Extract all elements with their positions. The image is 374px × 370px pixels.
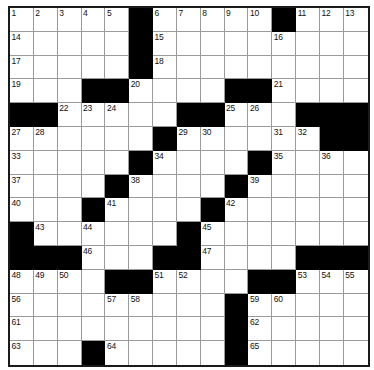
grid-cell[interactable]: [153, 294, 177, 318]
grid-cell[interactable]: 61: [10, 317, 34, 341]
grid-cell[interactable]: 7: [177, 8, 201, 32]
grid-cell[interactable]: 44: [82, 222, 106, 246]
grid-cell[interactable]: [34, 151, 58, 175]
grid-cell[interactable]: [296, 198, 320, 222]
grid-cell[interactable]: [225, 246, 249, 270]
grid-cell[interactable]: 28: [34, 127, 58, 151]
grid-cell[interactable]: [82, 32, 106, 56]
grid-cell[interactable]: [201, 56, 225, 80]
grid-cell[interactable]: [34, 317, 58, 341]
grid-cell[interactable]: [201, 341, 225, 365]
grid-cell[interactable]: [248, 56, 272, 80]
grid-cell[interactable]: 58: [129, 294, 153, 318]
grid-cell[interactable]: [105, 151, 129, 175]
grid-cell[interactable]: 48: [10, 270, 34, 294]
grid-cell[interactable]: 19: [10, 79, 34, 103]
grid-cell[interactable]: 60: [272, 294, 296, 318]
grid-cell[interactable]: 9: [225, 8, 249, 32]
grid-cell[interactable]: [201, 32, 225, 56]
grid-cell[interactable]: [177, 56, 201, 80]
grid-cell[interactable]: 3: [58, 8, 82, 32]
grid-cell[interactable]: 39: [248, 175, 272, 199]
grid-cell[interactable]: [177, 317, 201, 341]
grid-cell[interactable]: [58, 56, 82, 80]
grid-cell[interactable]: [201, 151, 225, 175]
grid-cell[interactable]: 49: [34, 270, 58, 294]
grid-cell[interactable]: [344, 151, 368, 175]
grid-cell[interactable]: [248, 222, 272, 246]
grid-cell[interactable]: [201, 317, 225, 341]
grid-cell[interactable]: [153, 198, 177, 222]
grid-cell[interactable]: 23: [82, 103, 106, 127]
grid-cell[interactable]: 37: [10, 175, 34, 199]
grid-cell[interactable]: [296, 79, 320, 103]
grid-cell[interactable]: [225, 56, 249, 80]
grid-cell[interactable]: 42: [225, 198, 249, 222]
grid-cell[interactable]: 33: [10, 151, 34, 175]
grid-cell[interactable]: [296, 317, 320, 341]
grid-cell[interactable]: [105, 222, 129, 246]
grid-cell[interactable]: 40: [10, 198, 34, 222]
grid-cell[interactable]: 21: [272, 79, 296, 103]
grid-cell[interactable]: [58, 151, 82, 175]
grid-cell[interactable]: [320, 175, 344, 199]
grid-cell[interactable]: [225, 32, 249, 56]
grid-cell[interactable]: [58, 175, 82, 199]
grid-cell[interactable]: [201, 175, 225, 199]
grid-cell[interactable]: 41: [105, 198, 129, 222]
grid-cell[interactable]: [129, 317, 153, 341]
grid-cell[interactable]: 25: [225, 103, 249, 127]
grid-cell[interactable]: [177, 175, 201, 199]
grid-cell[interactable]: [201, 79, 225, 103]
grid-cell[interactable]: [344, 79, 368, 103]
grid-cell[interactable]: 55: [344, 270, 368, 294]
grid-cell[interactable]: [272, 198, 296, 222]
grid-cell[interactable]: 14: [10, 32, 34, 56]
grid-cell[interactable]: 51: [153, 270, 177, 294]
grid-cell[interactable]: 57: [105, 294, 129, 318]
grid-cell[interactable]: [201, 270, 225, 294]
grid-cell[interactable]: [344, 294, 368, 318]
grid-cell[interactable]: [58, 317, 82, 341]
grid-cell[interactable]: 29: [177, 127, 201, 151]
grid-cell[interactable]: [320, 317, 344, 341]
grid-cell[interactable]: 27: [10, 127, 34, 151]
grid-cell[interactable]: [58, 79, 82, 103]
grid-cell[interactable]: 5: [105, 8, 129, 32]
grid-cell[interactable]: [177, 294, 201, 318]
grid-cell[interactable]: 17: [10, 56, 34, 80]
grid-cell[interactable]: [34, 294, 58, 318]
grid-cell[interactable]: [344, 198, 368, 222]
grid-cell[interactable]: [320, 198, 344, 222]
grid-cell[interactable]: [177, 79, 201, 103]
grid-cell[interactable]: [129, 127, 153, 151]
grid-cell[interactable]: [225, 127, 249, 151]
grid-cell[interactable]: 15: [153, 32, 177, 56]
grid-cell[interactable]: [320, 56, 344, 80]
grid-cell[interactable]: 18: [153, 56, 177, 80]
grid-cell[interactable]: 2: [34, 8, 58, 32]
grid-cell[interactable]: [58, 294, 82, 318]
grid-cell[interactable]: [272, 317, 296, 341]
grid-cell[interactable]: 22: [58, 103, 82, 127]
grid-cell[interactable]: [58, 127, 82, 151]
grid-cell[interactable]: 53: [296, 270, 320, 294]
grid-cell[interactable]: 24: [105, 103, 129, 127]
grid-cell[interactable]: [129, 198, 153, 222]
grid-cell[interactable]: [344, 222, 368, 246]
grid-cell[interactable]: 59: [248, 294, 272, 318]
grid-cell[interactable]: [225, 270, 249, 294]
grid-cell[interactable]: 34: [153, 151, 177, 175]
grid-cell[interactable]: [82, 270, 106, 294]
grid-cell[interactable]: [34, 175, 58, 199]
grid-cell[interactable]: 65: [248, 341, 272, 365]
grid-cell[interactable]: 35: [272, 151, 296, 175]
grid-cell[interactable]: [34, 341, 58, 365]
grid-cell[interactable]: [344, 32, 368, 56]
grid-cell[interactable]: [320, 32, 344, 56]
grid-cell[interactable]: [129, 222, 153, 246]
grid-cell[interactable]: [225, 222, 249, 246]
grid-cell[interactable]: [105, 317, 129, 341]
grid-cell[interactable]: 13: [344, 8, 368, 32]
grid-cell[interactable]: 26: [248, 103, 272, 127]
